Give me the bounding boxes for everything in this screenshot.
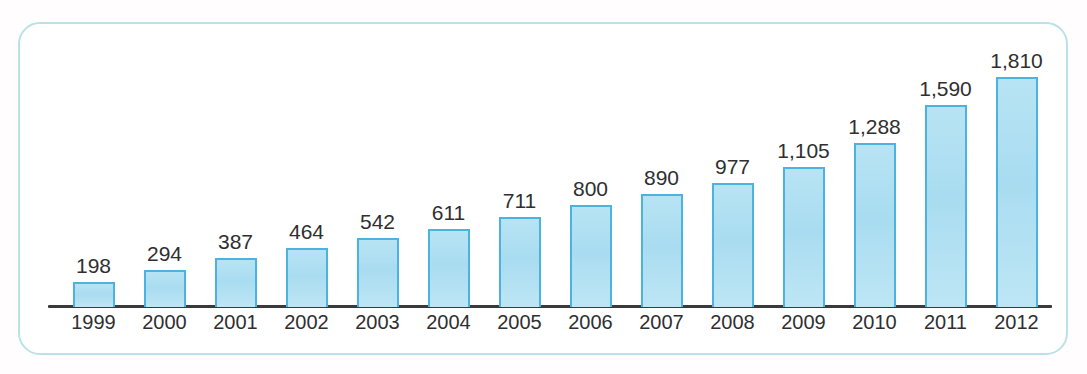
bar-value-label: 387	[197, 230, 274, 254]
x-axis-tick-label: 2004	[408, 311, 489, 334]
bar-value-label: 464	[268, 220, 345, 244]
x-axis-tick-label: 2010	[834, 311, 915, 334]
bar[interactable]	[428, 229, 470, 307]
bar-value-label: 198	[55, 254, 132, 278]
x-axis-tick-label: 2007	[621, 311, 702, 334]
bar[interactable]	[73, 282, 115, 307]
bar-value-label: 1,288	[836, 115, 913, 139]
bar-value-label: 711	[481, 189, 558, 213]
bar-group: 464 2002	[271, 0, 342, 374]
bar[interactable]	[996, 77, 1038, 307]
bar[interactable]	[641, 194, 683, 307]
bar-group: 711 2005	[484, 0, 555, 374]
x-axis-tick-label: 2002	[266, 311, 347, 334]
bar-value-label: 611	[410, 201, 487, 225]
bar[interactable]	[286, 248, 328, 307]
x-axis-tick-label: 1999	[53, 311, 134, 334]
bar-group: 1,590 2011	[910, 0, 981, 374]
bar-group: 800 2006	[555, 0, 626, 374]
bar-group: 294 2000	[129, 0, 200, 374]
x-axis-tick-label: 2009	[763, 311, 844, 334]
bar-value-label: 542	[339, 210, 416, 234]
bar-chart-plot-area: 198 1999 294 2000 387 2001 464 2002 542 …	[0, 0, 1087, 374]
bar-group: 890 2007	[626, 0, 697, 374]
bar-value-label: 1,810	[978, 49, 1055, 73]
x-axis-tick-label: 2008	[692, 311, 773, 334]
x-axis-tick-label: 2011	[905, 311, 986, 334]
bar[interactable]	[783, 167, 825, 307]
bar[interactable]	[712, 183, 754, 307]
bar-group: 387 2001	[200, 0, 271, 374]
bar[interactable]	[499, 217, 541, 307]
bar-value-label: 1,590	[907, 77, 984, 101]
bar-value-label: 800	[552, 177, 629, 201]
bar-value-label: 294	[126, 242, 203, 266]
bar[interactable]	[144, 270, 186, 307]
bar-group: 542 2003	[342, 0, 413, 374]
bar-value-label: 1,105	[765, 139, 842, 163]
bar-group: 1,810 2012	[981, 0, 1052, 374]
bar-group: 1,105 2009	[768, 0, 839, 374]
x-axis-tick-label: 2005	[479, 311, 560, 334]
bar[interactable]	[854, 143, 896, 307]
x-axis-tick-label: 2006	[550, 311, 631, 334]
x-axis-tick-label: 2000	[124, 311, 205, 334]
bar-value-label: 890	[623, 166, 700, 190]
bar-group: 198 1999	[58, 0, 129, 374]
x-axis-tick-label: 2001	[195, 311, 276, 334]
bar-group: 1,288 2010	[839, 0, 910, 374]
chart-screenshot: 198 1999 294 2000 387 2001 464 2002 542 …	[0, 0, 1087, 374]
x-axis-tick-label: 2003	[337, 311, 418, 334]
bar[interactable]	[215, 258, 257, 307]
bar[interactable]	[357, 238, 399, 307]
x-axis-tick-label: 2012	[976, 311, 1057, 334]
bar-value-label: 977	[694, 155, 771, 179]
bar[interactable]	[570, 205, 612, 307]
bar[interactable]	[925, 105, 967, 307]
bar-group: 977 2008	[697, 0, 768, 374]
bar-group: 611 2004	[413, 0, 484, 374]
